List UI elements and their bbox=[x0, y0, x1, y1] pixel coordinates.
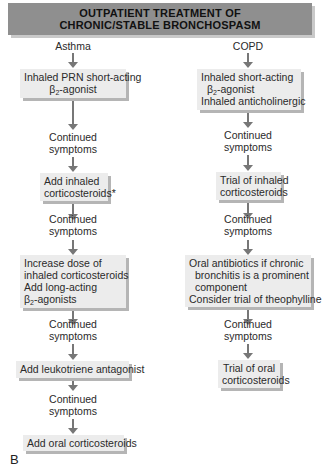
step-text: Oral antibiotics if chronic bbox=[189, 257, 307, 269]
asthma-step-2: Add inhaled corticosteroids* bbox=[40, 173, 108, 201]
asthma-step-1: Inhaled PRN short-acting β2-agonist bbox=[20, 69, 126, 98]
step-text: Increase dose of bbox=[24, 257, 122, 269]
step-text: bronchitis is a prominent bbox=[189, 269, 307, 281]
step-text: Add leukotriene antagonist bbox=[20, 363, 125, 375]
step-text: Trial of oral bbox=[222, 362, 276, 374]
continued-symptoms: Continued symptoms bbox=[33, 393, 113, 417]
step-text: Inhaled PRN short-acting bbox=[24, 71, 122, 83]
arrow-down-icon bbox=[247, 240, 249, 250]
asthma-step-5: Add oral corticosteroids bbox=[23, 435, 124, 451]
step-text: Add inhaled bbox=[44, 175, 104, 187]
step-text: Consider trial of theophylline bbox=[189, 293, 307, 305]
arrow-down-icon bbox=[72, 381, 74, 386]
panel-label: B bbox=[10, 452, 19, 467]
copd-header: COPD bbox=[218, 40, 278, 52]
step-text: inhaled corticosteroids bbox=[24, 269, 122, 281]
step-text: corticosteroids* bbox=[44, 187, 104, 199]
arrow-down-icon bbox=[72, 53, 74, 63]
step-text: Add oral corticosteroids bbox=[27, 437, 120, 449]
step-text: β2-agonist bbox=[201, 83, 297, 95]
step-text: β2-agonists bbox=[24, 293, 122, 305]
continued-symptoms: Continued symptoms bbox=[33, 213, 113, 237]
copd-step-1: Inhaled short-acting β2-agonist Inhaled … bbox=[197, 69, 301, 110]
step-text: Inhaled short-acting bbox=[201, 71, 297, 83]
arrow-down-icon bbox=[247, 155, 249, 166]
step-text: corticosteroids bbox=[222, 374, 276, 386]
arrow-down-icon bbox=[72, 419, 74, 429]
copd-step-4: Trial of oral corticosteroids bbox=[218, 360, 280, 388]
arrow-down-icon bbox=[72, 101, 74, 125]
continued-symptoms: Continued symptoms bbox=[33, 131, 113, 155]
arrow-down-icon bbox=[247, 113, 249, 123]
continued-symptoms: Continued symptoms bbox=[208, 318, 288, 342]
title-banner: OUTPATIENT TREATMENT OF CHRONIC/STABLE B… bbox=[8, 3, 312, 35]
step-text: Trial of inhaled bbox=[220, 174, 277, 186]
asthma-step-3: Increase dose of inhaled corticosteroids… bbox=[20, 255, 126, 308]
continued-symptoms: Continued symptoms bbox=[208, 129, 288, 153]
continued-symptoms: Continued symptoms bbox=[33, 318, 113, 342]
title-line-2: CHRONIC/STABLE BRONCHOSPASM bbox=[59, 19, 260, 31]
arrow-down-icon bbox=[247, 53, 249, 63]
step-text: corticosteroids bbox=[220, 186, 277, 198]
arrow-down-icon bbox=[72, 157, 74, 167]
continued-symptoms: Continued symptoms bbox=[208, 213, 288, 237]
asthma-header: Asthma bbox=[43, 40, 103, 52]
step-text: component bbox=[189, 281, 307, 293]
title-line-1: OUTPATIENT TREATMENT OF bbox=[79, 7, 241, 19]
step-text: β2-agonist bbox=[24, 83, 122, 95]
copd-step-2: Trial of inhaled corticosteroids bbox=[216, 172, 281, 200]
step-text: Add long-acting bbox=[24, 281, 122, 293]
asthma-step-4: Add leukotriene antagonist bbox=[16, 361, 129, 378]
step-text: Inhaled anticholinergic bbox=[201, 95, 297, 107]
copd-step-3: Oral antibiotics if chronic bronchitis i… bbox=[185, 255, 311, 307]
arrow-down-icon bbox=[247, 344, 249, 354]
arrow-down-icon bbox=[72, 240, 74, 250]
arrow-down-icon bbox=[72, 344, 74, 355]
